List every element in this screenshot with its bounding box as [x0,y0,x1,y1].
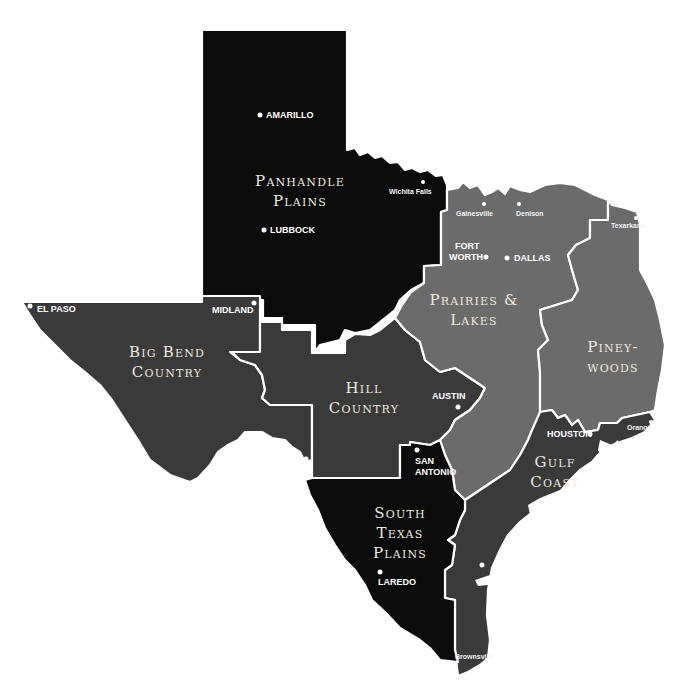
city-dot-icon [505,256,510,261]
city-dot-icon [484,255,489,260]
svg-text:Coast: Coast [530,473,579,491]
svg-text:Plains: Plains [373,544,427,562]
svg-text:Piney-: Piney- [587,338,639,356]
svg-text:LUBBOCK: LUBBOCK [270,225,315,235]
city-dot-icon [304,457,309,462]
svg-text:Denison: Denison [516,210,544,217]
svg-text:Gulf: Gulf [535,453,576,471]
city-dot-icon [588,432,593,437]
svg-text:Brownsville: Brownsville [455,653,494,660]
svg-text:SAN: SAN [415,456,434,466]
svg-text:woods: woods [587,358,639,376]
svg-text:Wichita Falls: Wichita Falls [389,188,432,195]
svg-text:Big Bend: Big Bend [129,343,205,361]
svg-text:Panhandle: Panhandle [255,172,345,190]
svg-text:South: South [374,504,426,522]
city-dot-icon [28,304,33,309]
svg-text:Orange: Orange [627,424,652,432]
svg-text:AMARILLO: AMARILLO [266,110,314,120]
svg-text:AUSTIN: AUSTIN [432,391,466,401]
texas-regions-map: Panhandle Plains Big Bend Country Hill C… [0,0,684,689]
city-dot-icon [649,420,653,424]
svg-text:Texas: Texas [377,524,424,542]
svg-text:FORT: FORT [455,241,480,251]
svg-text:WORTH: WORTH [449,252,483,262]
city-dot-icon [481,663,485,667]
svg-text:EL PASO: EL PASO [37,304,76,314]
city-dot-icon [482,202,486,206]
city-dot-icon [378,570,383,575]
svg-text:LAREDO: LAREDO [378,577,416,587]
svg-text:Country: Country [329,399,399,417]
svg-text:DEL RIO: DEL RIO [272,465,308,475]
svg-text:Prairies &: Prairies & [430,291,519,309]
city-dot-icon [262,228,267,233]
svg-text:Plains: Plains [273,192,327,210]
city-dot-icon [421,180,425,184]
city-houston[interactable]: HOUSTON [547,429,593,439]
svg-text:MIDLAND: MIDLAND [212,305,254,315]
label-south-texas-plains: South Texas Plains [373,504,427,562]
svg-text:CHRISTI: CHRISTI [496,576,532,586]
svg-text:Gainesville: Gainesville [456,210,493,217]
city-dot-icon [456,405,461,410]
svg-text:ANTONIO: ANTONIO [415,467,456,477]
city-dot-icon [480,563,485,568]
city-amarillo[interactable]: AMARILLO [258,110,314,120]
city-dot-icon [415,448,420,453]
city-dot-icon [258,113,263,118]
svg-text:Texarkana: Texarkana [611,222,645,229]
svg-text:DALLAS: DALLAS [514,253,551,263]
city-dot-icon [517,202,521,206]
svg-text:Lakes: Lakes [450,311,498,329]
city-dot-icon [634,216,638,220]
city-lubbock[interactable]: LUBBOCK [262,225,316,235]
svg-text:HOUSTON: HOUSTON [547,429,592,439]
svg-text:Hill: Hill [346,379,383,397]
svg-text:CORPUS: CORPUS [496,565,535,575]
svg-text:Country: Country [132,363,202,381]
